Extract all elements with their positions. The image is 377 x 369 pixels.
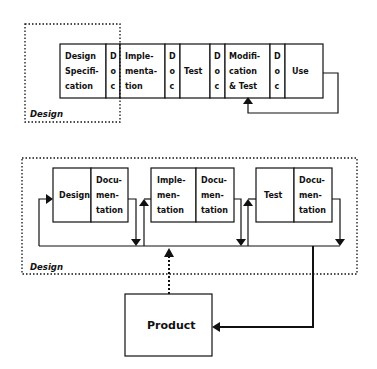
label-mod-2: cation [229, 67, 257, 76]
design-group-label-bottom: Design [30, 262, 63, 272]
connector-doc1-down [128, 199, 136, 240]
label-product: Product [147, 319, 196, 332]
arrow-right-icon [46, 194, 53, 204]
connector-doc3-down [332, 199, 340, 240]
label-doc2-o: o [170, 67, 176, 76]
label-doc-a2: men- [96, 191, 119, 200]
label-doc-b1: Docu- [201, 176, 227, 185]
label-doc4-o: o [275, 67, 281, 76]
label-doc4-d: D [274, 52, 281, 61]
label-doc-c3: tation [299, 206, 326, 215]
arrow-down-icon [335, 239, 345, 246]
label-doc1-d: D [110, 52, 117, 61]
label-doc4-c: c [275, 82, 280, 91]
label-impl-b1: Imple- [157, 176, 186, 185]
arrow-up-icon [139, 199, 149, 206]
arrow-left-icon [212, 322, 220, 332]
label-design-spec-3: cation [65, 82, 93, 91]
label-doc-c1: Docu- [299, 176, 325, 185]
label-impl-b2: men- [157, 191, 180, 200]
feedback-line-to-design [39, 199, 47, 246]
label-doc2-d: D [169, 52, 176, 61]
label-doc1-o: o [111, 67, 117, 76]
label-stage-design: Design [59, 191, 90, 200]
label-doc3-o: o [215, 67, 221, 76]
label-doc-b2: men- [201, 191, 224, 200]
output-line-to-product [219, 246, 313, 327]
connector-doc2-down [234, 199, 241, 240]
label-doc-b3: tation [201, 206, 228, 215]
label-doc1-c: c [111, 82, 116, 91]
label-design-spec-2: Specifi- [65, 67, 99, 76]
label-test: Test [184, 67, 203, 76]
label-stage-test: Test [264, 191, 283, 200]
label-impl-2: menta- [125, 67, 157, 76]
label-design-spec-1: Design [65, 52, 96, 61]
label-doc-a1: Docu- [96, 176, 122, 185]
arrow-up-icon [164, 248, 174, 257]
label-doc-a3: tation [96, 206, 123, 215]
arrow-down-icon [131, 239, 141, 246]
label-mod-3: & Test [229, 82, 257, 91]
design-group-label-top: Design [30, 109, 63, 119]
process-model-diagram: Design Design Specifi- cation D o c Impl… [0, 0, 377, 369]
label-use: Use [292, 67, 309, 76]
arrow-up-icon [243, 199, 253, 206]
label-impl-3: tion [125, 82, 143, 91]
label-impl-b3: tation [157, 206, 184, 215]
label-doc3-c: c [215, 82, 220, 91]
label-doc2-c: c [170, 82, 175, 91]
label-doc-c2: men- [299, 191, 322, 200]
label-impl-1: Imple- [125, 52, 154, 61]
label-doc3-d: D [214, 52, 221, 61]
arrow-down-icon [236, 239, 246, 246]
label-mod-1: Modifi- [229, 52, 260, 61]
